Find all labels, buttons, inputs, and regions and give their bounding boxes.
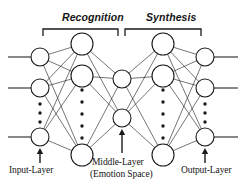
- neuron-node: [196, 79, 214, 97]
- ellipsis-dot: [203, 111, 206, 114]
- connection-edge: [48, 141, 72, 151]
- ellipsis-dot: [38, 111, 41, 114]
- network-diagram-figure: Recognition Synthesis Input-Layer Middle…: [0, 0, 244, 183]
- label-arrow-head: [37, 148, 43, 154]
- layer-label-emotion-space: (Emotion Space): [90, 170, 153, 180]
- brace-label-synthesis: Synthesis: [146, 12, 197, 23]
- neuron-node: [152, 65, 174, 87]
- layer-label-output: Output-Layer: [181, 166, 232, 176]
- label-arrow-head: [119, 129, 125, 135]
- ellipsis-dot: [203, 120, 206, 123]
- connection-edge: [90, 124, 115, 147]
- connection-edge: [171, 52, 199, 82]
- section-braces-group: [43, 29, 201, 36]
- neuron-node: [71, 65, 93, 87]
- neuron-node: [31, 79, 49, 97]
- label-arrow-head: [202, 148, 208, 154]
- neuron-node: [113, 109, 131, 127]
- connection-edge: [48, 61, 72, 72]
- connection-edge: [46, 52, 74, 82]
- layer-label-input: Input-Layer: [9, 166, 53, 176]
- connection-edge: [129, 124, 155, 148]
- ellipsis-dot: [80, 100, 83, 103]
- neuron-node: [31, 48, 49, 66]
- neuron-node: [196, 48, 214, 66]
- ellipsis-dot: [161, 88, 164, 91]
- neuron-node: [71, 33, 93, 55]
- connection-edge: [173, 141, 197, 151]
- neuron-node: [71, 144, 93, 166]
- connection-edge: [93, 77, 113, 79]
- connection-edge: [49, 47, 72, 54]
- connection-edge: [129, 51, 155, 73]
- connection-edge: [45, 96, 76, 146]
- ellipsis-dot: [203, 102, 206, 105]
- layer-label-middle: Middle-Layer: [92, 158, 144, 168]
- ellipsis-dot: [161, 124, 164, 127]
- ellipsis-dot: [161, 112, 164, 115]
- connection-edge: [173, 61, 197, 72]
- connection-edge: [174, 47, 197, 54]
- connection-edge: [131, 77, 152, 79]
- ellipsis-dot: [161, 136, 164, 139]
- connection-edge: [169, 96, 200, 146]
- neuron-node: [196, 128, 214, 146]
- neuron-node: [113, 70, 131, 88]
- neuron-node: [152, 144, 174, 166]
- ellipsis-dot: [38, 102, 41, 105]
- ellipsis-dot: [161, 100, 164, 103]
- brace-label-recognition: Recognition: [62, 12, 124, 23]
- neuron-node: [31, 128, 49, 146]
- connection-edge: [49, 79, 72, 86]
- ellipsis-dot: [80, 112, 83, 115]
- ellipsis-dot: [38, 120, 41, 123]
- network-diagram-canvas: [0, 0, 244, 183]
- ellipsis-dot: [80, 136, 83, 139]
- ellipsis-dot: [80, 124, 83, 127]
- connection-edge: [90, 51, 115, 73]
- ellipsis-dot: [80, 88, 83, 91]
- neuron-node: [152, 33, 174, 55]
